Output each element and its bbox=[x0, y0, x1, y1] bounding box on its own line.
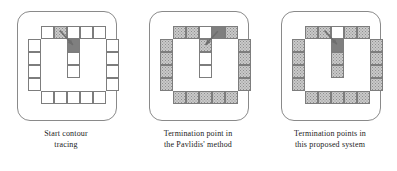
contour-cell-dark bbox=[212, 26, 225, 39]
contour-cell-gray bbox=[238, 39, 251, 52]
contour-cell-white bbox=[67, 91, 80, 104]
contour-cell-white bbox=[28, 65, 41, 78]
contour-cell-gray bbox=[305, 26, 318, 39]
panel-caption: Termination point inthe Pavlidis' method bbox=[132, 129, 264, 150]
contour-cell-gray bbox=[370, 39, 383, 52]
contour-cell-gray bbox=[160, 78, 173, 91]
contour-cell-gray bbox=[344, 91, 357, 104]
panel-start-contour-tracing: Start contourtracing bbox=[0, 0, 132, 171]
contour-cell-gray bbox=[173, 91, 186, 104]
contour-cell-white bbox=[41, 91, 54, 104]
contour-cell-white bbox=[199, 52, 212, 65]
contour-cell-white bbox=[80, 26, 93, 39]
contour-cell-gray bbox=[225, 91, 238, 104]
contour-cell-dark bbox=[331, 39, 344, 52]
contour-cell-gray bbox=[292, 65, 305, 78]
contour-cell-gray bbox=[238, 78, 251, 91]
contour-cell-gray bbox=[292, 39, 305, 52]
panel-caption-line-2: this proposed system bbox=[264, 140, 396, 151]
contour-cell-white bbox=[41, 26, 54, 39]
panel-caption-line-2: tracing bbox=[0, 140, 132, 151]
contour-cell-gray bbox=[331, 65, 344, 78]
panel-pavlidis-termination: Termination point inthe Pavlidis' method bbox=[132, 0, 264, 171]
contour-cell-white bbox=[93, 26, 106, 39]
contour-cell-white bbox=[331, 26, 344, 39]
contour-cell-white bbox=[67, 65, 80, 78]
contour-cell-gray bbox=[212, 91, 225, 104]
contour-cell-gray bbox=[186, 91, 199, 104]
contour-cell-gray bbox=[305, 91, 318, 104]
contour-cell-white bbox=[28, 52, 41, 65]
contour-cell-gray bbox=[238, 52, 251, 65]
contour-cell-gray bbox=[238, 65, 251, 78]
contour-cell-gray bbox=[344, 26, 357, 39]
contour-cell-white bbox=[93, 91, 106, 104]
contour-cell-white bbox=[106, 52, 119, 65]
contour-cell-gray bbox=[160, 52, 173, 65]
panel-caption-line-1: Termination points in bbox=[264, 129, 396, 140]
contour-cell-white bbox=[67, 26, 80, 39]
contour-grid bbox=[149, 11, 249, 121]
contour-cell-gray bbox=[370, 65, 383, 78]
contour-cell-gray bbox=[173, 26, 186, 39]
panel-caption-line-1: Termination point in bbox=[132, 129, 264, 140]
panel-caption-line-2: the Pavlidis' method bbox=[132, 140, 264, 151]
contour-cell-white bbox=[28, 78, 41, 91]
contour-cell-gray bbox=[318, 26, 331, 39]
contour-cell-gray bbox=[199, 91, 212, 104]
contour-cell-gray bbox=[331, 52, 344, 65]
contour-cell-gray bbox=[160, 65, 173, 78]
contour-cell-gray bbox=[225, 26, 238, 39]
contour-cell-gray bbox=[199, 39, 212, 52]
panel-caption-line-1: Start contour bbox=[0, 129, 132, 140]
contour-cell-gray bbox=[318, 91, 331, 104]
contour-cell-gray bbox=[292, 52, 305, 65]
panel-caption: Termination points inthis proposed syste… bbox=[264, 129, 396, 150]
contour-cell-white bbox=[199, 65, 212, 78]
contour-cell-white bbox=[106, 65, 119, 78]
contour-cell-gray bbox=[331, 91, 344, 104]
contour-cell-gray bbox=[357, 26, 370, 39]
contour-cell-gray bbox=[370, 78, 383, 91]
contour-cell-white bbox=[54, 91, 67, 104]
panel-proposed-termination: Termination points inthis proposed syste… bbox=[264, 0, 396, 171]
figure-contour-tracing: Start contourtracingTermination point in… bbox=[0, 0, 397, 171]
contour-grid bbox=[281, 11, 381, 121]
contour-grid bbox=[17, 11, 117, 121]
contour-cell-white bbox=[67, 52, 80, 65]
contour-cell-gray bbox=[186, 26, 199, 39]
contour-cell-gray bbox=[54, 26, 67, 39]
contour-cell-white bbox=[199, 26, 212, 39]
contour-cell-white bbox=[106, 78, 119, 91]
panel-caption: Start contourtracing bbox=[0, 129, 132, 150]
contour-cell-gray bbox=[292, 78, 305, 91]
contour-cell-dark bbox=[67, 39, 80, 52]
contour-cell-white bbox=[28, 39, 41, 52]
contour-cell-gray bbox=[357, 91, 370, 104]
contour-cell-gray bbox=[160, 39, 173, 52]
contour-cell-white bbox=[80, 91, 93, 104]
contour-cell-white bbox=[106, 39, 119, 52]
contour-cell-gray bbox=[370, 52, 383, 65]
